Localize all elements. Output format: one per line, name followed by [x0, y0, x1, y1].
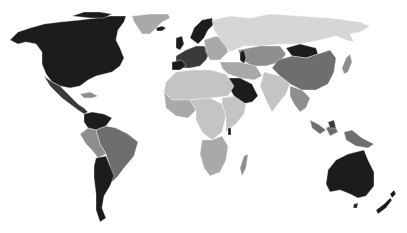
region-small-dark-east-africa [228, 128, 231, 135]
world-choropleth-map [0, 0, 407, 233]
region-southern-africa [200, 136, 228, 176]
region-iceland [156, 26, 166, 31]
region-tasmania [353, 203, 358, 208]
region-russia [212, 14, 370, 52]
region-new-zealand [376, 190, 396, 214]
region-indonesia [310, 120, 374, 148]
region-north-africa [164, 70, 234, 100]
region-uk [176, 36, 184, 50]
region-east-africa [222, 96, 246, 132]
region-japan [342, 54, 352, 74]
region-caribbean [80, 92, 98, 98]
region-central-africa [190, 98, 226, 140]
region-madagascar [240, 154, 248, 176]
region-greenland [132, 14, 170, 34]
region-australia [326, 150, 374, 198]
region-north-america [10, 16, 126, 88]
region-arctic-islands [72, 12, 112, 18]
